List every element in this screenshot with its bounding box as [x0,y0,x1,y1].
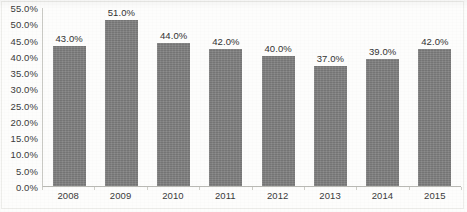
y-axis-tick-label: 45.0% [11,35,38,46]
bar [314,66,347,186]
bar-group: 40.0% [252,8,304,186]
bar [209,49,242,186]
bar [262,56,295,186]
bar [105,20,138,186]
y-axis-tick-label: 35.0% [11,68,38,79]
bar-value-label: 44.0% [160,30,187,41]
y-axis-tick-label: 5.0% [16,165,38,176]
bar-group: 39.0% [357,8,409,186]
bar [53,46,86,186]
y-axis-tick-label: 30.0% [11,84,38,95]
bar-value-label: 40.0% [264,43,291,54]
x-axis-tick-mark [461,187,462,190]
bar-value-label: 42.0% [212,36,239,47]
bar-value-label: 43.0% [55,33,82,44]
plot-area: 43.0%51.0%44.0%42.0%40.0%37.0%39.0%42.0% [42,8,461,187]
x-axis-tick-label: 2009 [94,190,146,206]
y-axis-tick-label: 25.0% [11,100,38,111]
y-axis-tick-label: 10.0% [11,149,38,160]
x-axis: 20082009201020112012201320142015 [42,190,461,206]
y-axis-tick-label: 50.0% [11,19,38,30]
bar-value-label: 39.0% [369,46,396,57]
bars-layer: 43.0%51.0%44.0%42.0%40.0%37.0%39.0%42.0% [43,8,461,186]
bar-chart: 0.0%5.0%10.0%15.0%20.0%25.0%30.0%35.0%40… [0,0,467,212]
x-axis-tick-label: 2012 [252,190,304,206]
y-axis-tick-label: 0.0% [16,182,38,193]
bar-group: 37.0% [304,8,356,186]
bar-value-label: 37.0% [317,53,344,64]
x-axis-tick-label: 2014 [356,190,408,206]
y-axis-tick-label: 15.0% [11,133,38,144]
x-axis-tick-label: 2011 [199,190,251,206]
bar-group: 51.0% [95,8,147,186]
bar [157,43,190,186]
y-axis: 0.0%5.0%10.0%15.0%20.0%25.0%30.0%35.0%40… [0,8,40,188]
bar-group: 42.0% [409,8,461,186]
bar-group: 44.0% [148,8,200,186]
bar [418,49,451,186]
y-axis-tick-label: 20.0% [11,116,38,127]
x-axis-tick-label: 2015 [409,190,461,206]
bar-group: 42.0% [200,8,252,186]
bar [366,59,399,186]
x-axis-tick-label: 2013 [304,190,356,206]
y-axis-tick-label: 55.0% [11,3,38,14]
x-axis-tick-label: 2008 [42,190,94,206]
y-axis-tick-label: 40.0% [11,51,38,62]
bar-value-label: 42.0% [421,36,448,47]
bar-value-label: 51.0% [108,7,135,18]
x-axis-tick-label: 2010 [147,190,199,206]
bar-group: 43.0% [43,8,95,186]
